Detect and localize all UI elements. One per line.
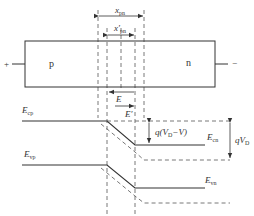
n-region-label: n — [186, 58, 191, 68]
field-E-label: E — [116, 95, 122, 104]
field-E-prime-label: E′ — [125, 110, 132, 119]
positive-terminal: + — [4, 60, 9, 69]
Ecn-label: Ecn — [207, 133, 218, 143]
xpn-prime-label: x′pn — [114, 24, 126, 34]
xpn-label: xpn — [115, 6, 125, 16]
negative-terminal: − — [232, 59, 237, 68]
Evp-label: Evp — [24, 150, 36, 160]
p-region-label: p — [49, 59, 54, 69]
forward-barrier-label: q(VD−V) — [155, 128, 187, 138]
equilibrium-barrier-label: qVD — [235, 136, 249, 146]
Evn-label: Evn — [205, 176, 217, 186]
valence-band-line — [22, 165, 205, 188]
Ecp-label: Ecp — [22, 106, 33, 116]
